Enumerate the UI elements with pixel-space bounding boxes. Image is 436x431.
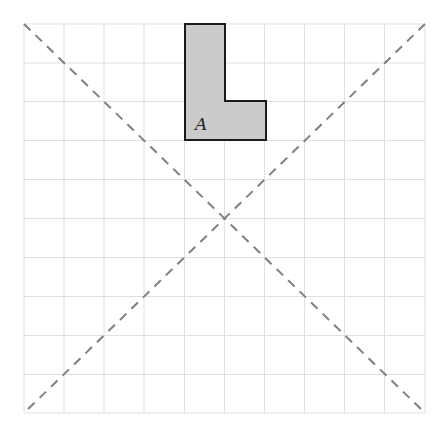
grid-diagram: A [0,0,436,431]
shape-a: A [185,24,266,140]
shape-label: A [193,114,207,134]
